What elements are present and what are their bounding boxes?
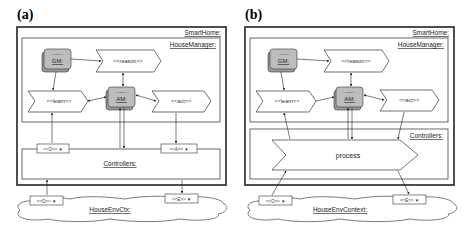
am-stereotype: <<agent>> <box>343 91 356 94</box>
svg-text:<<O>> ▼: <<O>> ▼ <box>37 199 57 204</box>
environment-title: HouseEnvCtx: <box>89 206 131 213</box>
gm-name: GM: <box>52 58 64 64</box>
process-label: process <box>336 152 361 160</box>
am-name: AM: <box>116 96 127 102</box>
svg-text:<<O>> ▼: <<O>> ▼ <box>266 199 286 204</box>
svg-text:<<A>> ▼: <<A>> ▼ <box>169 147 188 152</box>
am-stereotype: <<agent>> <box>115 91 128 94</box>
svg-text:<<E>> ▼: <<E>> ▼ <box>400 198 419 203</box>
panel-a: (a) SmartHome: HouseManager: <<reason>> … <box>17 7 227 222</box>
learn-label: <<learn>> <box>274 98 299 104</box>
svg-text:<<O>> ▼: <<O>> ▼ <box>43 147 63 152</box>
panel-b: (b) SmartHome: HouseManager: <<reason>> … <box>245 7 457 222</box>
env-observe-port[interactable]: <<O>> ▼ <box>259 196 292 205</box>
gm-agent: <<agent>> GM: <box>268 49 297 72</box>
smarthome-title: SmartHome: <box>413 29 450 36</box>
act-label: <<act>> <box>171 98 191 104</box>
panel-a-label: (a) <box>17 7 34 23</box>
env-observe-port[interactable]: <<O>> ▼ <box>30 196 63 205</box>
reason-label: <<reason>> <box>341 58 371 64</box>
gm-stereotype: <<agent>> <box>51 53 64 56</box>
diagram-canvas: (a) SmartHome: HouseManager: <<reason>> … <box>0 0 469 232</box>
controller-observe-port[interactable]: <<O>> ▼ <box>37 144 69 153</box>
housemanager-title: HouseManager: <box>398 41 444 49</box>
learn-label: <<learn>> <box>46 98 71 104</box>
housemanager-title: HouseManager: <box>170 41 216 49</box>
am-agent: <<agent>> AM: <box>106 87 135 110</box>
smarthome-title: SmartHome: <box>185 29 222 36</box>
gm-name: GM: <box>278 58 290 64</box>
am-name: AM: <box>344 96 355 102</box>
panel-b-label: (b) <box>245 7 262 23</box>
svg-text:<<E>> ▼: <<E>> ▼ <box>172 197 191 202</box>
reason-label: <<reason>> <box>113 58 143 64</box>
am-agent: <<agent>> AM: <box>334 87 363 110</box>
controllers-title: Controllers: <box>103 160 136 167</box>
controllers-title: Controllers: <box>410 132 443 139</box>
env-effect-port[interactable]: <<E>> ▼ <box>165 194 198 203</box>
gm-stereotype: <<agent>> <box>277 53 290 56</box>
gm-agent: <<agent>> GM: <box>42 49 71 72</box>
act-label: <<act>> <box>399 97 419 103</box>
environment-title: HouseEnvContext: <box>313 206 367 213</box>
env-effect-port[interactable]: <<E>> ▼ <box>393 195 426 204</box>
controller-act-port[interactable]: <<A>> ▼ <box>161 144 197 153</box>
